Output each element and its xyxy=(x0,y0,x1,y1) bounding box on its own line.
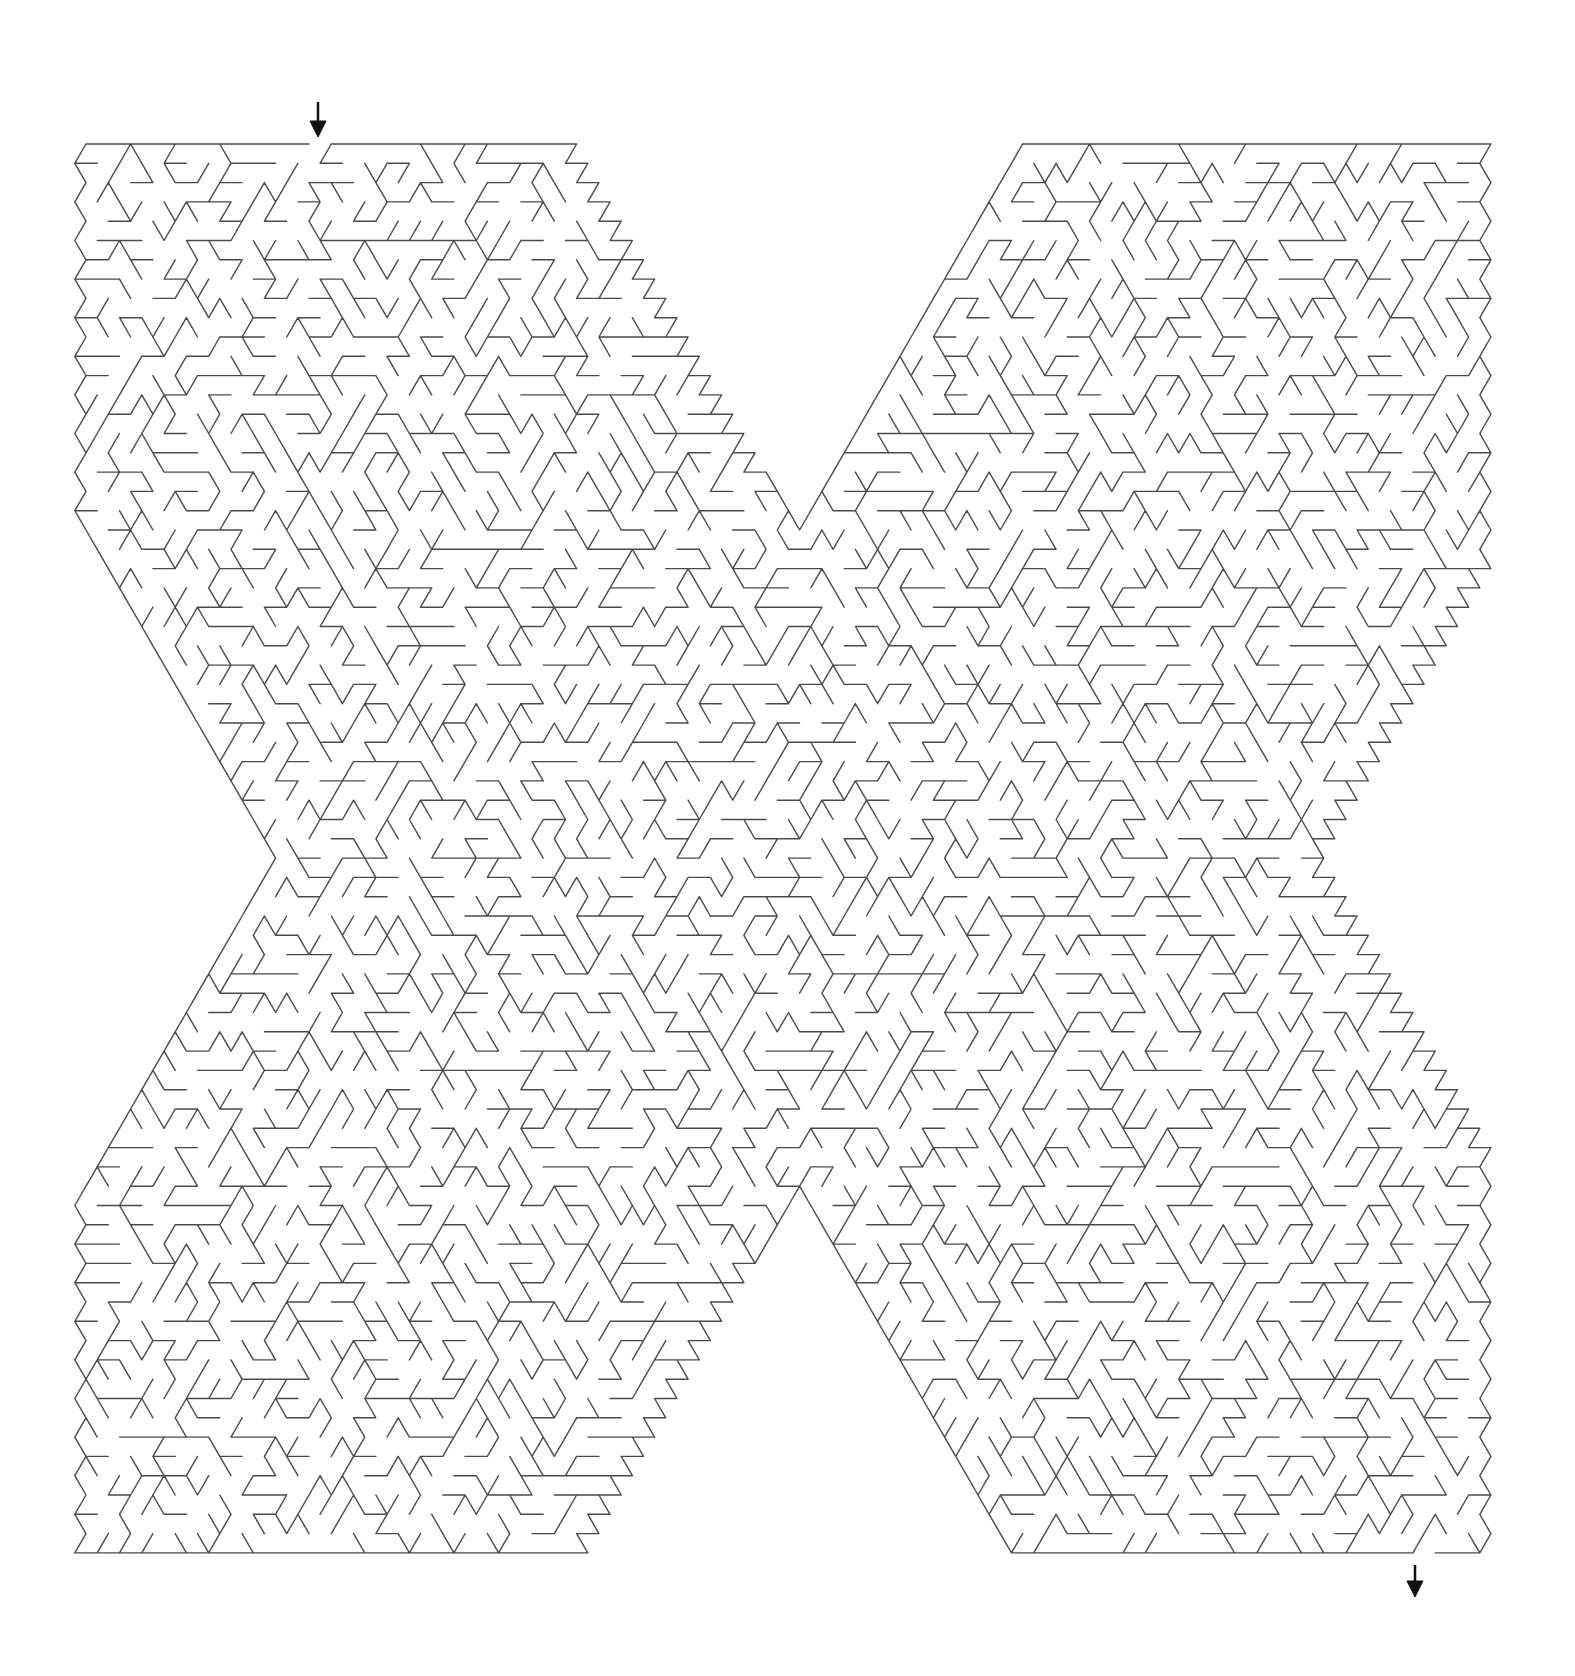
end-arrow-icon xyxy=(1407,1565,1423,1597)
maze-wall-segments xyxy=(75,144,1491,1553)
maze-walls xyxy=(75,144,1491,1553)
maze-board[interactable] xyxy=(0,0,1575,1676)
start-arrow-icon xyxy=(310,102,326,137)
